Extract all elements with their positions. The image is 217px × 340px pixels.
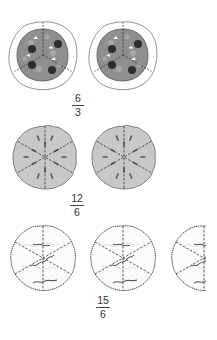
pizza-2: [89, 22, 157, 90]
numerator: 6: [75, 93, 81, 104]
pie-1: [13, 125, 76, 189]
row-1-models: [9, 22, 157, 90]
pizza-1: [9, 22, 77, 90]
pie-2: [92, 125, 155, 189]
fraction-row-3: 15 6: [96, 295, 110, 320]
denominator: 6: [74, 207, 80, 218]
row-2-models: [13, 125, 155, 189]
denominator: 3: [75, 107, 81, 118]
pie-4: [91, 226, 156, 291]
pie-3: [11, 226, 76, 291]
fraction-row-1: 6 3: [72, 93, 84, 118]
pie-5-partial: [172, 226, 217, 291]
row-3-models: [11, 226, 217, 291]
numerator: 12: [71, 193, 83, 204]
fraction-models-canvas: [0, 0, 217, 340]
fraction-row-2: 12 6: [70, 193, 84, 218]
denominator: 6: [100, 309, 106, 320]
numerator: 15: [97, 295, 109, 306]
